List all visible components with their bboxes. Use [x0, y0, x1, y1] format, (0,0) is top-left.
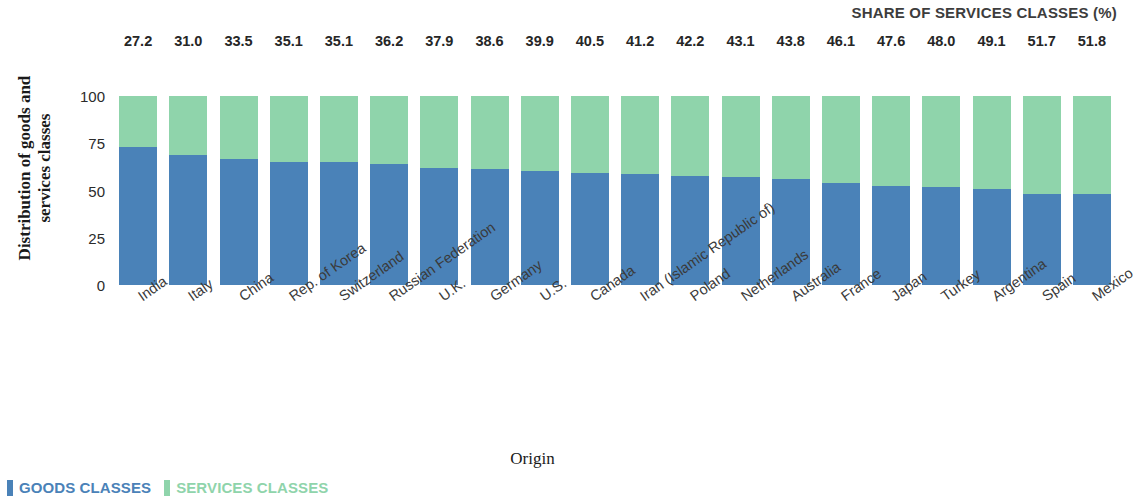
bar-column[interactable] — [922, 96, 960, 285]
legend-item[interactable]: SERVICES CLASSES — [164, 479, 328, 496]
bar-segment-goods[interactable] — [1073, 194, 1111, 285]
bar-column[interactable] — [471, 96, 509, 285]
y-axis-tick-label: 0 — [59, 277, 105, 294]
y-axis-tick-label: 100 — [59, 88, 105, 105]
data-label: 27.2 — [110, 33, 166, 49]
data-label: 46.1 — [813, 33, 869, 49]
bar-segment-services[interactable] — [822, 96, 860, 183]
bar-segment-services[interactable] — [420, 96, 458, 168]
bar-segment-goods[interactable] — [571, 173, 609, 285]
y-axis-tick-label: 75 — [59, 135, 105, 152]
bar-segment-services[interactable] — [119, 96, 157, 147]
data-label: 51.7 — [1014, 33, 1070, 49]
data-label: 33.5 — [211, 33, 267, 49]
data-label: 31.0 — [160, 33, 216, 49]
data-label: 42.2 — [662, 33, 718, 49]
data-label: 38.6 — [462, 33, 518, 49]
bar-segment-services[interactable] — [1023, 96, 1061, 194]
bar-column[interactable] — [119, 96, 157, 285]
legend-swatch-icon — [7, 480, 13, 496]
bar-segment-services[interactable] — [621, 96, 659, 174]
x-axis-title: Origin — [0, 449, 1095, 469]
bar-column[interactable] — [1023, 96, 1061, 285]
bar-column[interactable] — [722, 96, 760, 285]
data-label: 39.9 — [512, 33, 568, 49]
bar-segment-services[interactable] — [521, 96, 559, 171]
bar-column[interactable] — [270, 96, 308, 285]
bar-segment-services[interactable] — [671, 96, 709, 176]
legend-label: GOODS CLASSES — [19, 479, 151, 496]
y-axis-tick-label: 50 — [59, 182, 105, 199]
y-axis-title-line1: Distribution of goods and — [15, 43, 35, 293]
bar-segment-services[interactable] — [922, 96, 960, 187]
bar-column[interactable] — [571, 96, 609, 285]
data-label: 37.9 — [411, 33, 467, 49]
bar-column[interactable] — [1073, 96, 1111, 285]
y-axis-title-line2: services classes — [35, 43, 55, 293]
bar-column[interactable] — [872, 96, 910, 285]
bar-column[interactable] — [621, 96, 659, 285]
data-label: 49.1 — [964, 33, 1020, 49]
data-label: 35.1 — [261, 33, 317, 49]
bar-segment-goods[interactable] — [169, 155, 207, 285]
bar-segment-goods[interactable] — [973, 189, 1011, 285]
data-label: 35.1 — [311, 33, 367, 49]
data-label: 47.6 — [863, 33, 919, 49]
bar-segment-services[interactable] — [169, 96, 207, 155]
bar-segment-goods[interactable] — [922, 187, 960, 285]
data-label: 43.8 — [763, 33, 819, 49]
legend-swatch-icon — [164, 480, 170, 496]
bar-column[interactable] — [220, 96, 258, 285]
data-label: 36.2 — [361, 33, 417, 49]
bar-column[interactable] — [521, 96, 559, 285]
bar-column[interactable] — [169, 96, 207, 285]
bar-segment-services[interactable] — [220, 96, 258, 159]
data-label: 48.0 — [913, 33, 969, 49]
bar-segment-services[interactable] — [320, 96, 358, 162]
data-label: 41.2 — [612, 33, 668, 49]
bar-segment-goods[interactable] — [270, 162, 308, 285]
bar-segment-services[interactable] — [772, 96, 810, 179]
legend-label: SERVICES CLASSES — [176, 479, 328, 496]
bar-segment-services[interactable] — [872, 96, 910, 186]
bar-column[interactable] — [973, 96, 1011, 285]
bar-segment-services[interactable] — [471, 96, 509, 169]
data-label: 43.1 — [713, 33, 769, 49]
y-axis-tick-label: 25 — [59, 229, 105, 246]
y-axis-title: Distribution of goods and services class… — [15, 43, 55, 293]
data-label: 51.8 — [1064, 33, 1120, 49]
data-label: 40.5 — [562, 33, 618, 49]
bar-segment-services[interactable] — [370, 96, 408, 164]
bar-segment-services[interactable] — [722, 96, 760, 177]
bar-segment-services[interactable] — [270, 96, 308, 162]
bar-segment-goods[interactable] — [119, 147, 157, 285]
y-axis-ticks: 1007550250 — [55, 96, 105, 285]
chart-legend: GOODS CLASSESSERVICES CLASSES — [7, 479, 328, 496]
chart-title: SHARE OF SERVICES CLASSES (%) — [851, 4, 1117, 21]
bar-segment-goods[interactable] — [220, 159, 258, 285]
bar-segment-services[interactable] — [973, 96, 1011, 189]
plot-area — [113, 96, 1117, 285]
bar-column[interactable] — [822, 96, 860, 285]
bar-segment-services[interactable] — [1073, 96, 1111, 194]
legend-item[interactable]: GOODS CLASSES — [7, 479, 151, 496]
bar-segment-services[interactable] — [571, 96, 609, 173]
